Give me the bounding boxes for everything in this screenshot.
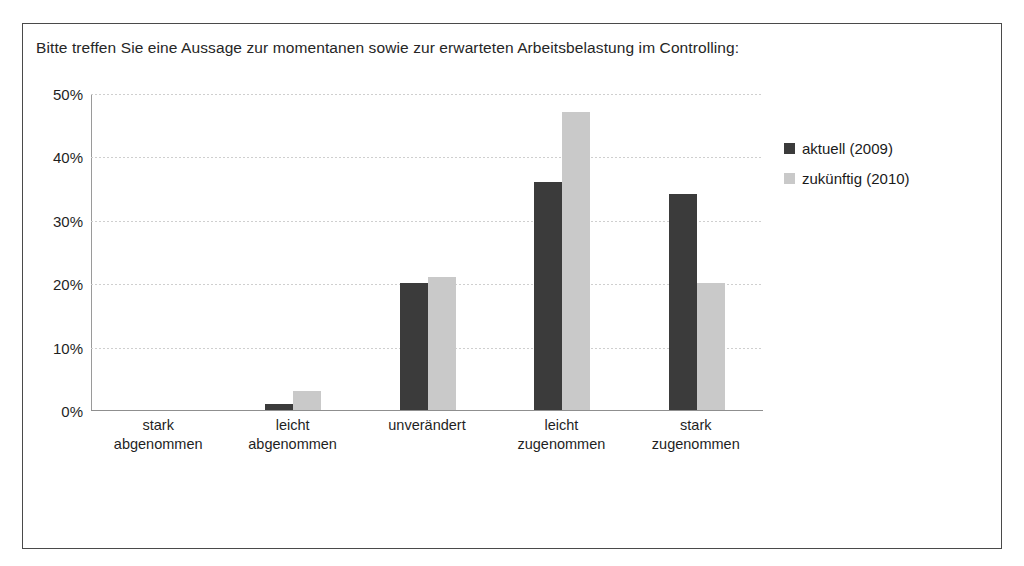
bar: [265, 404, 293, 410]
bar: [428, 277, 456, 410]
x-category-label-line: zugenommen: [494, 435, 628, 454]
x-category-label-line: abgenommen: [225, 435, 359, 454]
legend-label: aktuell (2009): [802, 140, 893, 157]
x-category-label-line: zugenommen: [629, 435, 763, 454]
bar-group: [629, 93, 763, 410]
y-tick-label: 20%: [53, 276, 83, 293]
x-category-label: unverändert: [360, 416, 494, 435]
x-category-label-line: unverändert: [360, 416, 494, 435]
legend-item[interactable]: aktuell (2009): [784, 140, 910, 157]
x-axis-line: [91, 410, 763, 411]
bar-group: [360, 93, 494, 410]
y-tick-label: 10%: [53, 339, 83, 356]
x-axis-category-labels: starkabgenommenleichtabgenommenunverände…: [91, 416, 763, 476]
y-axis-tick-labels: 0%10%20%30%40%50%: [30, 94, 83, 411]
bar: [293, 391, 321, 410]
y-tick-label: 50%: [53, 86, 83, 103]
bar-group: [91, 93, 225, 410]
bar-group: [225, 93, 359, 410]
legend-swatch-icon: [784, 173, 795, 184]
y-tick-label: 40%: [53, 149, 83, 166]
x-category-label-line: leicht: [494, 416, 628, 435]
legend-label: zukünftig (2010): [802, 170, 910, 187]
bar-group: [494, 93, 628, 410]
chart-legend: aktuell (2009)zukünftig (2010): [784, 140, 910, 200]
legend-item[interactable]: zukünftig (2010): [784, 170, 910, 187]
bar: [669, 194, 697, 410]
x-category-label: starkabgenommen: [91, 416, 225, 454]
y-tick-label: 0%: [61, 403, 83, 420]
x-category-label-line: abgenommen: [91, 435, 225, 454]
y-tick-label: 30%: [53, 212, 83, 229]
bar: [400, 283, 428, 410]
x-category-label: leichtzugenommen: [494, 416, 628, 454]
x-category-label-line: stark: [91, 416, 225, 435]
bar: [562, 112, 590, 410]
x-category-label: starkzugenommen: [629, 416, 763, 454]
bar: [534, 182, 562, 410]
bar: [697, 283, 725, 410]
x-category-label-line: leicht: [225, 416, 359, 435]
legend-swatch-icon: [784, 143, 795, 154]
plot-area: [91, 94, 763, 411]
x-category-label: leichtabgenommen: [225, 416, 359, 454]
x-category-label-line: stark: [629, 416, 763, 435]
chart-title: Bitte treffen Sie eine Aussage zur momen…: [36, 39, 739, 57]
